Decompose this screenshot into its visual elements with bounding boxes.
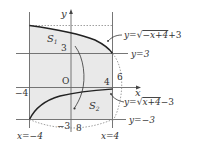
tick-label-8: 8 [76, 123, 82, 133]
x-eq-4-label: x=4 [101, 131, 120, 141]
upper-curve-label: y=√−x+4+3 [123, 30, 182, 40]
transform-arrow-head-icon [73, 107, 75, 109]
y-axis-label: y [60, 8, 67, 19]
y-eq-3-label: y=3 [130, 49, 150, 59]
y-eq-neg3-label: y=−3 [128, 115, 155, 125]
x-eq-neg4-label: x=−4 [17, 131, 43, 141]
tick-label-4: 4 [104, 77, 110, 87]
tick-label-neg4: −4 [15, 88, 29, 98]
tick-label-6: 6 [117, 72, 123, 82]
upper-leader-dot-icon [107, 40, 109, 42]
y-axis-arrow-icon [69, 9, 73, 14]
origin-label: O [62, 76, 69, 86]
tick-label-3: 3 [61, 43, 67, 53]
area-diagram: y x O 3 4 6 −4 −3 8 S1 S2 y=√−x+4+3 y=3 … [0, 0, 202, 145]
upper-curve-leader [108, 35, 122, 41]
lower-leader-dot-icon [110, 93, 112, 95]
lower-curve-label: y=√x+4−3 [123, 97, 174, 107]
tick-label-neg3: −3 [57, 121, 71, 131]
